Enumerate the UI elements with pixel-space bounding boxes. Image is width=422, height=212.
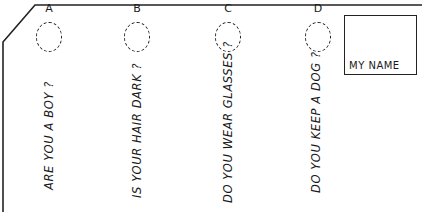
punch-hole-b[interactable] <box>124 22 150 52</box>
name-label: MY NAME <box>349 60 400 71</box>
question-letter: B <box>117 3 157 15</box>
question-letter: D <box>298 3 338 15</box>
question-text-a: ARE YOU A BOY ? <box>42 81 56 190</box>
question-text-b: IS YOUR HAIR DARK ? <box>130 63 144 198</box>
name-box[interactable]: MY NAME <box>344 15 417 75</box>
punch-hole-d[interactable] <box>305 22 331 52</box>
question-text-c: DO YOU WEAR GLASSES ? <box>221 41 235 203</box>
question-letter: C <box>208 3 248 15</box>
question-letter: A <box>29 3 69 15</box>
punch-hole-a[interactable] <box>36 22 62 52</box>
question-text-d: DO YOU KEEP A DOG ? <box>309 51 323 193</box>
